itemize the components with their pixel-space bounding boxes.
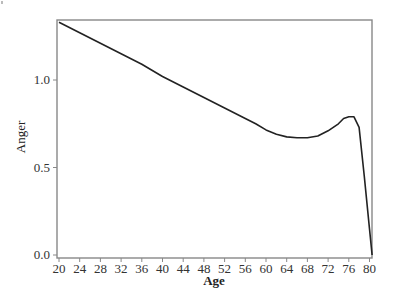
y-tick-label: 0.0 — [34, 247, 50, 262]
x-tick-label: 76 — [342, 261, 356, 276]
x-axis-title: Age — [203, 273, 225, 288]
x-tick-label: 68 — [301, 261, 314, 276]
x-tick-label: 80 — [363, 261, 376, 276]
x-tick-label: 60 — [260, 261, 273, 276]
x-tick-label: 24 — [73, 261, 87, 276]
x-tick-label: 36 — [135, 261, 149, 276]
plot-border — [57, 20, 372, 258]
y-tick-label: 0.5 — [34, 160, 50, 175]
y-tick-label: 1.0 — [34, 72, 50, 87]
x-tick-label: 28 — [94, 261, 107, 276]
anger-line — [59, 22, 372, 255]
x-tick-label: 40 — [156, 261, 169, 276]
y-axis: 0.00.51.0 — [34, 72, 57, 262]
x-tick-label: 20 — [53, 261, 66, 276]
y-axis-title: Anger — [13, 120, 28, 153]
plot-frame — [57, 20, 372, 258]
x-tick-label: 56 — [239, 261, 253, 276]
x-tick-label: 64 — [280, 261, 294, 276]
x-tick-label: 72 — [322, 261, 335, 276]
line-chart: 20242832364044485256606468727680 0.00.51… — [0, 0, 395, 307]
x-tick-label: 44 — [177, 261, 191, 276]
x-tick-label: 32 — [115, 261, 128, 276]
